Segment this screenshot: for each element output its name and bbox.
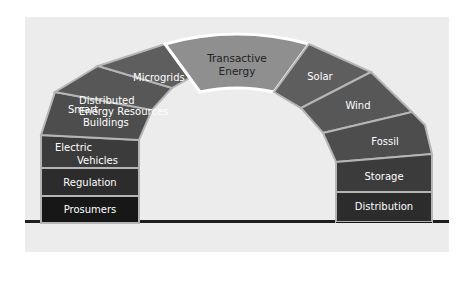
stone-label-storage: Storage: [364, 171, 403, 182]
stone-label-energy-resources: Energy Resources: [79, 106, 168, 117]
stone-label-prosumers: Prosumers: [64, 204, 117, 215]
stone-label-fossil: Fossil: [371, 136, 399, 147]
stone-label-buildings: Buildings: [83, 117, 129, 128]
stone-label-wind: Wind: [345, 100, 370, 111]
arch-diagram: Prosumers Regulation Electric Vehicles S…: [0, 0, 475, 285]
stone-label-distribution: Distribution: [355, 201, 413, 212]
arch-stone-transmission: [336, 222, 432, 223]
stone-label-distributed: Distributed: [79, 95, 135, 106]
stone-shape-cap: [336, 222, 432, 223]
arch-stone-prosumers: Prosumers: [41, 196, 139, 223]
stone-label-solar: Solar: [307, 71, 333, 82]
stone-label-microgrids: Microgrids: [133, 72, 185, 83]
stone-label-electric: Electric: [55, 142, 92, 153]
keystone-label-line2: Energy: [219, 65, 256, 77]
keystone-label-line1: Transactive: [206, 52, 267, 64]
arch-stone-regulation: Regulation: [41, 168, 139, 196]
stone-label-regulation: Regulation: [63, 177, 116, 188]
arch-stone-distribution: Distribution: [336, 192, 432, 222]
stone-label-vehicles: Vehicles: [77, 155, 118, 166]
